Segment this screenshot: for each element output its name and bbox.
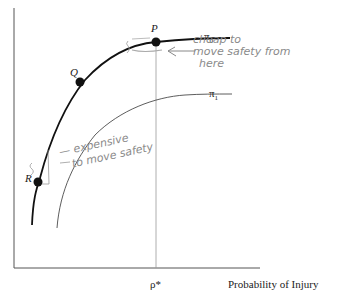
point-q	[76, 78, 85, 87]
pi1-label: π1	[209, 87, 218, 102]
note-p-line-3: here	[193, 58, 291, 70]
brace-mark-p	[127, 41, 130, 53]
diagram-canvas: P Q R π0 π1 ρ* Probability of Injury che…	[0, 0, 350, 296]
point-p	[152, 38, 161, 47]
hand-underline-p	[132, 50, 162, 52]
hand-line-p	[132, 38, 150, 39]
point-p-label: P	[151, 22, 158, 34]
handwritten-note-p: cheap to move safety from here	[193, 34, 291, 70]
x-axis-label: Probability of Injury	[228, 278, 318, 290]
rho-star-label: ρ*	[150, 278, 161, 290]
point-r-label: R	[25, 172, 32, 184]
diagram-svg	[0, 0, 350, 296]
arrow-mark-p	[168, 47, 195, 56]
point-r	[34, 178, 43, 187]
point-q-label: Q	[70, 66, 78, 78]
pi1-subscript: 1	[215, 94, 219, 102]
